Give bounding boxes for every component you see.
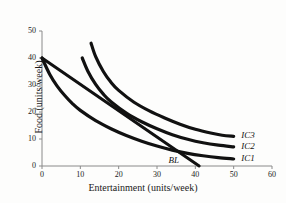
curve-ic3 [91, 43, 234, 136]
curve-label-ic2: IC2 [241, 142, 255, 151]
x-tick-label: 50 [230, 171, 238, 179]
curves-group [42, 43, 234, 166]
y-tick-label: 50 [20, 27, 36, 35]
x-tick-label: 20 [115, 171, 123, 179]
curve-label-ic3: IC3 [241, 131, 255, 140]
x-tick-label: 30 [153, 171, 161, 179]
x-tick-label: 60 [268, 171, 276, 179]
y-tick-label: 0 [20, 162, 36, 170]
y-tick-label: 10 [20, 135, 36, 143]
y-axis-title: Food (units/week) [33, 60, 44, 133]
indifference-curve-chart: 010203040506001020304050 Entertainment (… [0, 0, 286, 203]
curve-label-bl: BL [169, 156, 180, 165]
x-tick-label: 0 [40, 171, 44, 179]
budget-line [42, 58, 199, 166]
x-axis-title: Entertainment (units/week) [88, 182, 197, 193]
curve-label-ic1: IC1 [241, 154, 255, 163]
axes-group [39, 31, 272, 169]
x-tick-label: 40 [191, 171, 199, 179]
x-tick-label: 10 [76, 171, 84, 179]
